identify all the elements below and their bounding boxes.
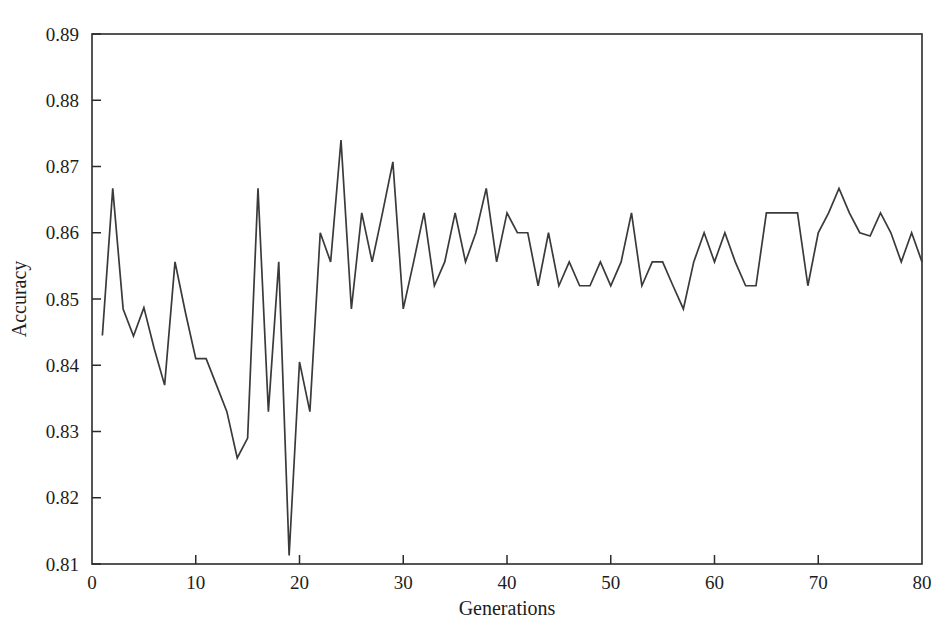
figure-container: 0.810.820.830.840.850.860.870.880.89 010…	[0, 0, 947, 637]
y-tick-label: 0.82	[46, 487, 79, 508]
y-axis-tick-labels: 0.810.820.830.840.850.860.870.880.89	[46, 24, 80, 575]
x-tick-label: 50	[601, 572, 620, 593]
x-tick-label: 40	[498, 572, 517, 593]
y-tick-label: 0.81	[46, 554, 79, 575]
y-tick-label: 0.85	[46, 289, 79, 310]
y-tick-label: 0.86	[46, 222, 79, 243]
x-tick-label: 10	[186, 572, 205, 593]
x-tick-label: 80	[913, 572, 932, 593]
y-axis-title: Accuracy	[8, 261, 31, 338]
x-tick-label: 70	[809, 572, 828, 593]
y-tick-label: 0.84	[46, 355, 80, 376]
x-tick-label: 0	[87, 572, 97, 593]
x-tick-label: 30	[394, 572, 413, 593]
y-tick-label: 0.83	[46, 421, 79, 442]
x-axis-title: Generations	[459, 597, 556, 619]
x-tick-label: 60	[705, 572, 724, 593]
y-tick-label: 0.88	[46, 90, 79, 111]
chart-background	[0, 0, 947, 637]
x-tick-label: 20	[290, 572, 309, 593]
y-tick-label: 0.87	[46, 156, 79, 177]
accuracy-vs-generations-line-chart: 0.810.820.830.840.850.860.870.880.89 010…	[0, 0, 947, 637]
y-tick-label: 0.89	[46, 24, 79, 45]
